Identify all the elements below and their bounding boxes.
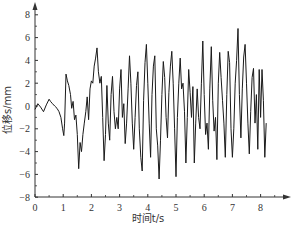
y-axis-arrow-icon <box>33 2 38 10</box>
y-tick-label: −8 <box>19 192 30 203</box>
y-axis-title: 位移s/mm <box>1 86 13 134</box>
x-tick-label: 7 <box>230 202 235 213</box>
x-tick-label: 3 <box>117 202 122 213</box>
y-axis <box>33 2 38 197</box>
y-tick-label: −2 <box>19 123 30 134</box>
x-tick-label: 8 <box>258 202 263 213</box>
x-tick-label: 0 <box>33 202 38 213</box>
x-tick-label: 2 <box>89 202 94 213</box>
x-tick-label: 5 <box>174 202 179 213</box>
y-tick-label: −4 <box>19 146 30 157</box>
y-tick-label: 2 <box>25 78 30 89</box>
displacement-series-line <box>35 29 266 180</box>
x-tick-label: 4 <box>145 202 150 213</box>
y-tick-label: 4 <box>25 55 30 66</box>
y-tick-label: 0 <box>25 101 30 112</box>
y-tick-label: −6 <box>19 169 30 180</box>
x-axis-arrow-icon <box>283 195 291 200</box>
x-axis <box>35 195 291 200</box>
displacement-time-chart: −8−6−4−202468 012345678 时间t/s 位移s/mm <box>0 0 295 233</box>
x-tick-label: 1 <box>61 202 66 213</box>
y-tick-label: 6 <box>25 32 30 43</box>
x-tick-label: 6 <box>202 202 207 213</box>
x-axis-title: 时间t/s <box>132 212 165 224</box>
y-tick-label: 8 <box>25 9 30 20</box>
